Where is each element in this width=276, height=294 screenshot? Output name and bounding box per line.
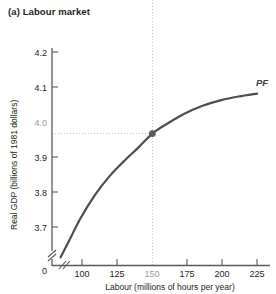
y-tick-label-3-7: 3.7 [34,223,47,233]
y-axis-break-mark-icon [48,250,56,257]
x-tick-label-150: 150 [144,269,159,279]
origin-label-zero: 0 [42,266,47,276]
y-tick-label-4-2: 4.2 [34,48,47,58]
y-tick-label-4-0: 4.0 [34,118,47,128]
y-tick-label-3-9: 3.9 [34,153,47,163]
x-tick-label-175: 175 [179,269,194,279]
labour-market-chart: 4.2 4.1 4.0 3.9 3.8 3.7 0 100 125 150 17… [0,0,276,294]
y-tick-label-3-8: 3.8 [34,188,47,198]
curve-label-pf: PF [256,77,268,88]
y-axis-title: Real GDP (billions of 1981 dollars) [9,100,19,230]
y-tick-label-4-1: 4.1 [34,83,47,93]
x-tick-label-100: 100 [74,269,89,279]
production-function-curve [61,94,257,258]
x-tick-label-200: 200 [214,269,229,279]
x-tick-label-225: 225 [249,269,264,279]
figure-panel-a-labour-market: (a) Labour market 4.2 4.1 4.0 3.9 3.8 3.… [0,0,276,294]
x-tick-label-125: 125 [109,269,124,279]
x-axis-title: Labour (millions of hours per year) [105,282,235,292]
full-employment-point-marker [149,130,156,137]
